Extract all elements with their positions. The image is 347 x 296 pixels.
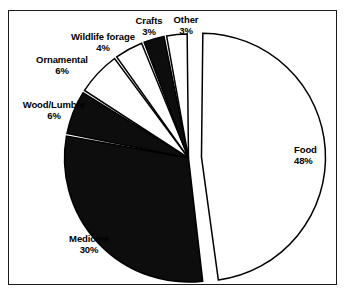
pie-label-crafts-value: 3% [132,26,166,37]
pie-label-wood-lumber: Wood/Lumber 6% [12,99,96,121]
pie-label-wildlife-forage-value: 4% [62,42,144,53]
pie-label-ornamental: Ornamental 6% [22,54,102,76]
pie-label-ornamental-name: Ornamental [22,54,102,65]
pie-label-wood-lumber-value: 6% [12,110,96,121]
pie-slice-medicine [64,136,202,282]
pie-label-ornamental-value: 6% [22,65,102,76]
pie-label-other: Other 3% [170,14,202,36]
pie-label-medicine: Medicine 30% [52,233,126,255]
pie-label-medicine-value: 30% [52,244,126,255]
pie-label-wood-lumber-name: Wood/Lumber [12,99,96,110]
pie-label-medicine-name: Medicine [52,233,126,244]
pie-label-food: Food 48% [294,144,317,166]
pie-label-crafts-name: Crafts [132,15,166,26]
pie-label-food-name: Food [294,144,317,155]
pie-label-food-value: 48% [294,155,317,166]
pie-label-other-name: Other [170,14,202,25]
pie-label-other-value: 3% [170,25,202,36]
pie-label-crafts: Crafts 3% [132,15,166,37]
